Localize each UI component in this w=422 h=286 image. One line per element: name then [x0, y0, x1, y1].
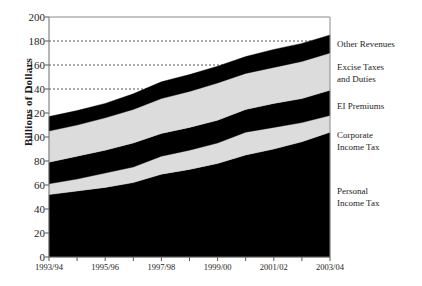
x-tick-label: 1995/96	[91, 262, 119, 272]
legend-item: Corporate Income Tax	[337, 130, 379, 153]
y-tick-label: 120	[5, 108, 45, 118]
y-tick-label: 200	[5, 12, 45, 22]
legend: Other RevenuesExcise Taxes and DutiesEI …	[337, 0, 422, 286]
y-tick-label: 80	[5, 156, 45, 166]
stacked-area-chart: Billions of Dollars 02040608010012014016…	[0, 0, 422, 286]
legend-item: Other Revenues	[337, 39, 395, 51]
y-axis-tick-labels: 020406080100120140160180200	[0, 0, 45, 286]
y-tick-label: 140	[5, 84, 45, 94]
x-axis-tick-marks	[49, 257, 330, 261]
y-tick-label: 60	[5, 180, 45, 190]
legend-item: EI Premiums	[337, 101, 384, 113]
y-tick-label: 40	[5, 204, 45, 214]
legend-item: Excise Taxes and Duties	[337, 62, 384, 85]
x-tick-label: 1999/00	[204, 262, 232, 272]
legend-item: Personal Income Tax	[337, 186, 379, 209]
y-tick-label: 0	[5, 252, 45, 262]
x-tick-label: 2001/02	[260, 262, 288, 272]
area-series-group	[49, 35, 330, 257]
y-axis-tick-marks	[45, 17, 49, 257]
x-tick-label: 1993/94	[35, 262, 63, 272]
y-tick-label: 180	[5, 36, 45, 46]
y-tick-label: 160	[5, 60, 45, 70]
x-tick-label: 1997/98	[147, 262, 175, 272]
y-tick-label: 20	[5, 228, 45, 238]
y-tick-label: 100	[5, 132, 45, 142]
